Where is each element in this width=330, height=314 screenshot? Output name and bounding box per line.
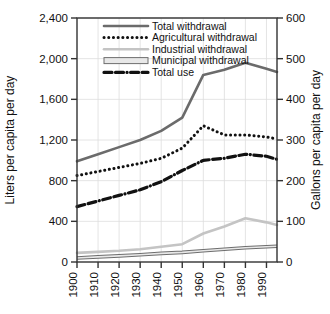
x-tick-label: 1910 xyxy=(88,272,100,298)
y-tick-label-left: 2,000 xyxy=(39,53,68,65)
x-tick-label: 1900 xyxy=(67,272,79,298)
x-tick-label: 1990 xyxy=(256,272,268,298)
legend-label-agricultural-withdrawal: Agricultural withdrawal xyxy=(152,31,257,43)
y-tick-label-right: 600 xyxy=(286,12,305,24)
y-tick-label-left: 800 xyxy=(49,175,68,187)
y-axis-title-right: Gallons per capita per day xyxy=(309,70,323,210)
x-tick-label: 1950 xyxy=(172,272,184,298)
x-tick-label: 1930 xyxy=(130,272,142,298)
x-tick-label: 1980 xyxy=(235,272,247,298)
legend-label-total-withdrawal: Total withdrawal xyxy=(152,20,227,32)
y-tick-label-left: 400 xyxy=(49,215,68,227)
x-tick-label: 1940 xyxy=(151,272,163,298)
water-withdrawal-line-chart: 04008001,2001,6002,0002,4000100200300400… xyxy=(0,0,330,314)
legend-label-total-use: Total use xyxy=(152,66,194,78)
x-tick-label: 1920 xyxy=(109,272,121,298)
y-tick-label-right: 0 xyxy=(286,256,292,268)
y-tick-label-left: 0 xyxy=(62,256,68,268)
y-tick-label-left: 2,400 xyxy=(39,12,68,24)
y-tick-label-right: 200 xyxy=(286,175,305,187)
chart-container: 04008001,2001,6002,0002,4000100200300400… xyxy=(0,0,330,314)
y-axis-right: 0100200300400500600 xyxy=(277,12,305,268)
x-axis: 1900191019201930194019501960197019801990 xyxy=(67,262,268,298)
legend-swatch-municipal-withdrawal xyxy=(104,58,148,64)
y-tick-label-right: 500 xyxy=(286,53,305,65)
y-axis-left: 04008001,2001,6002,0002,400 xyxy=(39,12,77,268)
y-tick-label-right: 400 xyxy=(286,93,305,105)
x-tick-label: 1960 xyxy=(193,272,205,298)
y-tick-label-right: 100 xyxy=(286,215,305,227)
y-axis-title-left: Liters per capita per day xyxy=(3,76,17,205)
y-tick-label-left: 1,600 xyxy=(39,93,68,105)
y-tick-label-left: 1,200 xyxy=(39,134,68,146)
x-tick-label: 1970 xyxy=(214,272,226,298)
legend-label-municipal-withdrawal: Municipal withdrawal xyxy=(152,54,249,66)
legend-label-industrial-withdrawal: Industrial withdrawal xyxy=(152,43,247,55)
y-tick-label-right: 300 xyxy=(286,134,305,146)
